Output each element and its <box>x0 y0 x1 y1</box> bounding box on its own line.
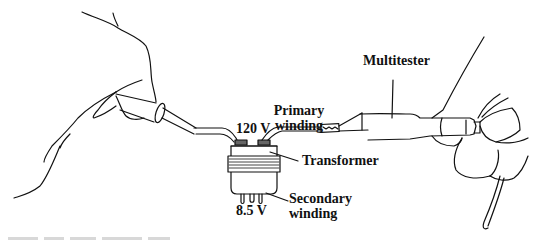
primary-winding-label: Primary winding <box>271 103 327 133</box>
secondary-voltage-label: 8.5 V <box>236 203 267 218</box>
diagram-canvas: Multitester Primary winding 120 V Transf… <box>0 0 548 243</box>
secondary-winding-label: Secondary winding <box>289 191 352 221</box>
primary-voltage-label: 120 V <box>236 121 270 136</box>
multitester-probe-icon <box>360 80 480 140</box>
primary-winding-label-line1: Primary <box>271 103 327 118</box>
primary-winding-label-line2: winding <box>271 118 327 133</box>
secondary-winding-label-line2: winding <box>289 206 352 221</box>
left-probe-icon <box>116 94 238 142</box>
transformer-label: Transformer <box>302 153 379 168</box>
transformer-icon <box>228 140 280 204</box>
multitester-label: Multitester <box>363 53 430 68</box>
left-hand-icon <box>14 12 156 198</box>
secondary-winding-label-line1: Secondary <box>289 191 352 206</box>
cropped-caption-remnant <box>8 237 208 243</box>
